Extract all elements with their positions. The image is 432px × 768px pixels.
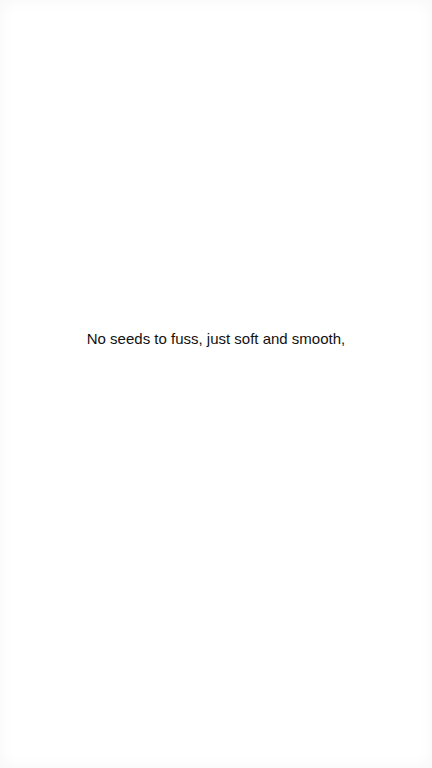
- caption-screen: No seeds to fuss, just soft and smooth,: [0, 0, 432, 768]
- caption-text: No seeds to fuss, just soft and smooth,: [0, 329, 432, 349]
